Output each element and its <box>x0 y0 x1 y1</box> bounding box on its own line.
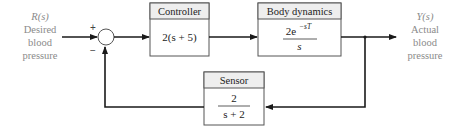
controller-block: Controller 2(s + 5) <box>150 3 209 56</box>
body-dynamics-block: Body dynamics 2e −sT s <box>258 3 341 56</box>
minus-sign: − <box>90 45 96 56</box>
input-line-2: blood <box>28 37 53 48</box>
output-symbol: Y(s) <box>417 11 434 23</box>
plus-sign: + <box>90 22 96 33</box>
controller-title: Controller <box>158 6 202 17</box>
body-dynamics-denominator: s <box>297 40 301 52</box>
output-line-1: Actual <box>411 24 439 35</box>
sensor-denominator: s + 2 <box>223 108 244 120</box>
input-symbol: R(s) <box>30 11 49 23</box>
block-diagram: R(s) Desired blood pressure + − Controll… <box>0 0 455 130</box>
input-label: R(s) Desired blood pressure <box>23 11 58 61</box>
output-label: Y(s) Actual blood pressure <box>408 11 443 61</box>
sensor-block: Sensor 2 s + 2 <box>204 72 264 125</box>
body-dynamics-numerator: 2e <box>286 25 297 37</box>
output-line-2: blood <box>413 37 438 48</box>
controller-transfer-function: 2(s + 5) <box>162 31 197 44</box>
output-line-3: pressure <box>408 50 443 61</box>
sensor-numerator: 2 <box>231 92 237 104</box>
input-line-3: pressure <box>23 50 58 61</box>
body-dynamics-exponent: −sT <box>299 22 312 31</box>
sensor-title: Sensor <box>220 75 249 86</box>
body-dynamics-title: Body dynamics <box>267 6 333 17</box>
summing-junction <box>98 29 114 45</box>
input-line-1: Desired <box>24 24 57 35</box>
